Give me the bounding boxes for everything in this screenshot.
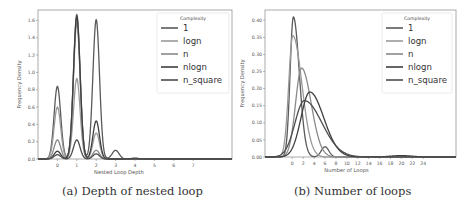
y-tick-label: 1.4	[28, 35, 35, 40]
legend-title: Complexity	[180, 16, 206, 21]
x-tick-label: 4	[313, 161, 316, 166]
y-tick-label: 0.30	[252, 52, 262, 57]
x-tick-label: 1	[75, 163, 78, 168]
legend-entry-1: 1	[183, 23, 188, 33]
x-tick-label: 3	[114, 163, 117, 168]
y-tick-label: 0.4	[28, 122, 35, 127]
y-tick-label: 0.05	[252, 138, 262, 143]
x-tick-label: 12	[355, 161, 361, 166]
x-axis-label: Nested Loop Depth	[94, 169, 144, 176]
legend-entry-logn: logn	[408, 36, 427, 46]
legend-entry-n: n	[183, 49, 188, 59]
legend-entry-n: n	[408, 49, 413, 59]
x-tick-label: 7	[192, 163, 195, 168]
chart-panel-number-of-loops: 0.000.050.100.150.200.250.300.350.400246…	[240, 0, 473, 213]
x-tick-label: 6	[324, 161, 327, 166]
y-tick-label: 0.20	[252, 86, 262, 91]
x-tick-label: 8	[334, 161, 337, 166]
x-tick-label: 10	[344, 161, 350, 166]
legend-entry-n-square: n_square	[183, 75, 222, 85]
legend-entry-1: 1	[408, 23, 413, 33]
x-tick-label: 24	[420, 161, 426, 166]
y-tick-label: 0.2	[28, 139, 35, 144]
legend: Complexity1lognnnlognn_square	[157, 13, 229, 93]
y-tick-label: 0.6	[28, 105, 35, 110]
y-axis-label: Frequency Density	[16, 60, 23, 108]
y-tick-label: 1.0	[28, 70, 35, 75]
y-tick-label: 0.35	[252, 35, 262, 40]
caption-b: (b) Number of loops	[294, 184, 411, 198]
y-tick-label: 0.10	[252, 120, 262, 125]
kde-chart-nested-loop-depth: 0.00.20.40.60.81.01.21.41.601234567Neste…	[0, 0, 240, 213]
x-axis-label: Number of Loops	[324, 167, 369, 174]
kde-chart-number-of-loops: 0.000.050.100.150.200.250.300.350.400246…	[240, 0, 473, 213]
x-tick-label: 22	[409, 161, 415, 166]
x-tick-label: 2	[302, 161, 305, 166]
x-tick-label: 14	[366, 161, 372, 166]
caption-a: (a) Depth of nested loop	[62, 184, 203, 198]
legend-title: Complexity	[404, 16, 430, 21]
chart-panel-depth-of-nested-loop: 0.00.20.40.60.81.01.21.41.601234567Neste…	[0, 0, 240, 213]
y-tick-label: 0.8	[28, 87, 35, 92]
y-tick-label: 0.15	[252, 103, 262, 108]
y-tick-label: 0.00	[252, 155, 262, 160]
x-tick-label: 20	[398, 161, 404, 166]
legend: Complexity1lognnnlognn_square	[382, 13, 452, 93]
y-tick-label: 1.6	[28, 18, 35, 23]
y-tick-label: 1.2	[28, 53, 35, 58]
y-tick-label: 0.40	[252, 18, 262, 23]
x-tick-label: 0	[291, 161, 294, 166]
x-tick-label: 5	[153, 163, 156, 168]
y-tick-label: 0.25	[252, 69, 262, 74]
legend-entry-nlogn: nlogn	[183, 62, 207, 72]
x-tick-label: 18	[388, 161, 394, 166]
x-tick-label: 4	[134, 163, 137, 168]
x-tick-label: 6	[172, 163, 175, 168]
x-tick-label: 16	[377, 161, 383, 166]
y-axis-label: Frequency Density	[240, 59, 246, 107]
legend-entry-logn: logn	[183, 36, 202, 46]
x-tick-label: 2	[95, 163, 98, 168]
legend-entry-nlogn: nlogn	[408, 62, 432, 72]
legend-entry-n-square: n_square	[408, 75, 447, 85]
x-tick-label: 0	[56, 163, 59, 168]
y-tick-label: 0.0	[28, 157, 35, 162]
